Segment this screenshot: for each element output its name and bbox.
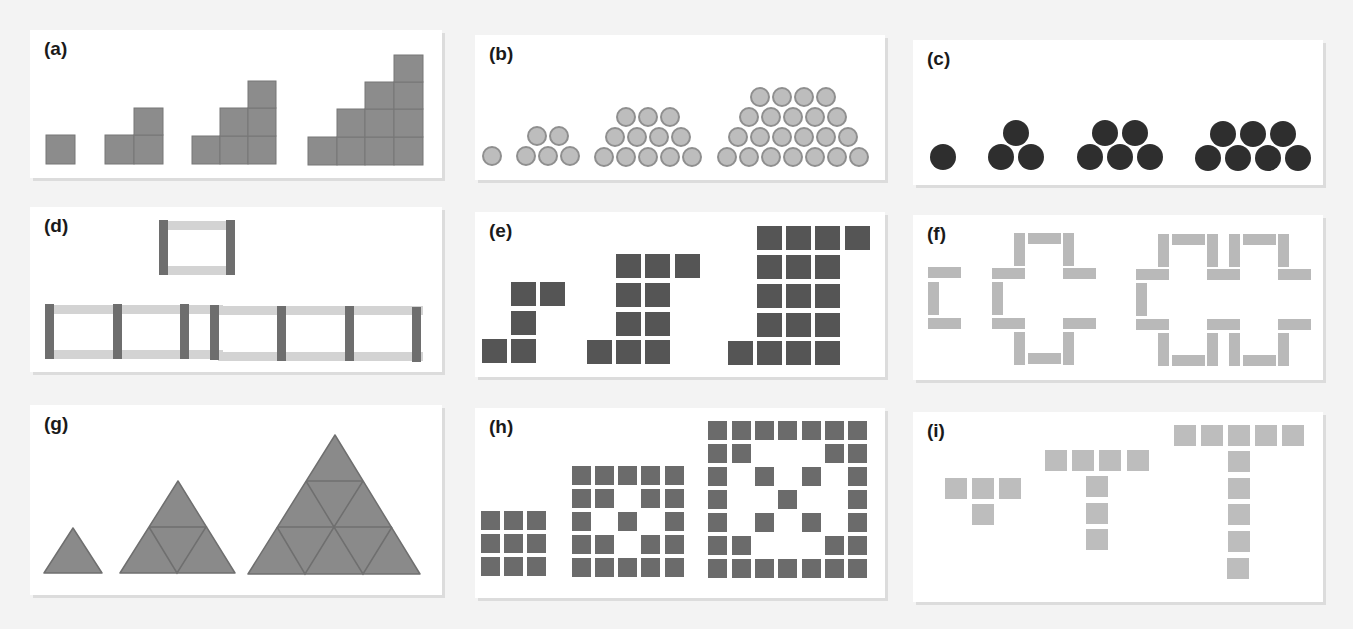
panel-i: (i) — [913, 412, 1323, 602]
panel-b: (b) — [475, 35, 885, 180]
subdivided-triangles-figure — [30, 405, 442, 595]
square-grid-x-figure — [475, 408, 885, 598]
rod-crosses-figure — [913, 215, 1323, 380]
rod-frames-figure — [30, 207, 442, 372]
panel-f: (f) — [913, 215, 1323, 380]
panel-c: (c) — [913, 40, 1323, 185]
panel-e: (e) — [475, 212, 885, 377]
dark-circle-figure — [913, 40, 1323, 185]
square-staircase-figure — [30, 30, 442, 178]
t-shapes-figure — [913, 412, 1323, 602]
panel-h: (h) — [475, 408, 885, 598]
panel-d: (d) — [30, 207, 442, 372]
panel-g: (g) — [30, 405, 442, 595]
dark-square-steps-figure — [475, 212, 885, 377]
circle-trapezoid-figure — [475, 35, 885, 180]
panel-a: (a) — [30, 30, 442, 178]
